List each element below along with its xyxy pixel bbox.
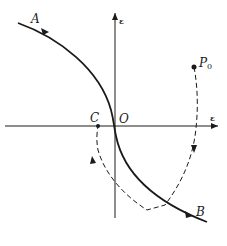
curve-arrow-lower-icon (185, 211, 193, 218)
label-o: O (119, 113, 129, 125)
trajectory-arrow-down-icon (191, 145, 197, 153)
switching-curve (18, 23, 207, 222)
diagram-canvas: A B O C P0 ε ε (0, 0, 227, 246)
label-p0-subscript: 0 (207, 62, 212, 71)
horizontal-axis-label: ε (210, 114, 215, 122)
trajectory-arrow-up-icon (90, 156, 96, 164)
diagram-svg (0, 0, 227, 246)
label-c: C (90, 112, 99, 124)
vertical-axis-label: ε (119, 17, 124, 25)
label-p0-main: P (199, 56, 207, 70)
label-p0: P0 (199, 57, 212, 71)
label-a: A (31, 13, 40, 25)
label-b: B (196, 206, 205, 218)
point-p0 (192, 65, 197, 70)
